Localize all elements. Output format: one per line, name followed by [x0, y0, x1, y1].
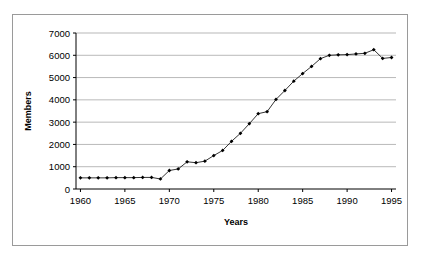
members-series-line [80, 50, 391, 179]
y-tick-label: 4000 [49, 94, 70, 105]
x-tick-label: 1995 [381, 195, 402, 206]
data-point-marker [203, 159, 207, 163]
members-series-markers [79, 48, 394, 181]
y-tick-label: 5000 [49, 72, 70, 83]
data-point-marker [363, 51, 367, 55]
x-tick-label: 1975 [203, 195, 224, 206]
members-over-years-line-chart: 01000200030004000500060007000 1960196519… [13, 15, 407, 245]
x-tick-label: 1965 [114, 195, 135, 206]
data-point-marker [132, 176, 136, 180]
data-point-marker [194, 161, 198, 165]
data-point-marker [123, 176, 127, 180]
data-point-marker [79, 176, 83, 180]
y-tick-label: 7000 [49, 28, 70, 39]
y-axis-title: Members [23, 91, 33, 131]
data-point-marker [150, 176, 154, 180]
x-tick-label: 1960 [70, 195, 91, 206]
x-tick-label: 1990 [337, 195, 358, 206]
y-axis-tick-labels: 01000200030004000500060007000 [49, 28, 70, 195]
x-tick-label: 1985 [292, 195, 313, 206]
y-tick-label: 1000 [49, 161, 70, 172]
gridlines-group [76, 33, 396, 167]
data-point-marker [327, 53, 331, 57]
data-point-marker [114, 176, 118, 180]
y-tick-label: 6000 [49, 50, 70, 61]
data-point-marker [390, 56, 394, 60]
x-axis-tick-labels: 19601965197019751980198519901995 [70, 195, 402, 206]
y-tick-label: 2000 [49, 139, 70, 150]
y-tick-label: 0 [65, 184, 70, 195]
data-point-marker [96, 176, 100, 180]
data-point-marker [336, 53, 340, 57]
data-point-marker [345, 53, 349, 57]
data-point-marker [87, 176, 91, 180]
y-tick-label: 3000 [49, 117, 70, 128]
data-point-marker [105, 176, 109, 180]
tick-marks-group [73, 33, 392, 192]
data-point-marker [212, 154, 216, 158]
x-tick-label: 1970 [159, 195, 180, 206]
data-point-marker [141, 176, 145, 180]
x-axis-title: Years [224, 217, 248, 227]
x-tick-label: 1980 [248, 195, 269, 206]
chart-figure-frame: 01000200030004000500060007000 1960196519… [12, 14, 408, 246]
